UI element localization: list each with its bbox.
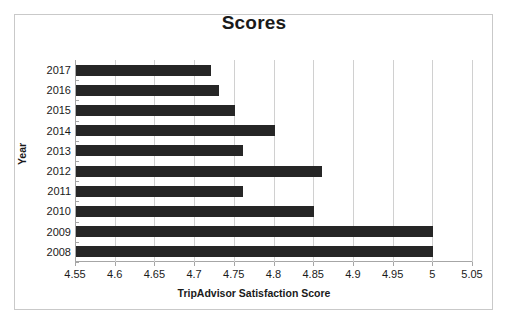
x-axis-title: TripAdvisor Satisfaction Score xyxy=(0,287,508,299)
y-axis-tick-label: 2010 xyxy=(31,201,71,221)
bar-row xyxy=(76,100,235,120)
x-axis-tick-label: 4.8 xyxy=(254,268,294,280)
x-axis-tick-label: 4.85 xyxy=(293,268,333,280)
bar-row xyxy=(76,222,433,242)
plot-area xyxy=(75,60,472,262)
y-axis-tick-label: 2016 xyxy=(31,80,71,100)
x-axis-tick-mark xyxy=(115,262,116,266)
x-axis-tick-mark xyxy=(353,262,354,266)
x-axis-tick-mark xyxy=(274,262,275,266)
x-axis-tick-label: 4.9 xyxy=(333,268,373,280)
x-axis-tick-mark xyxy=(313,262,314,266)
bar xyxy=(76,166,322,177)
chart-title: Scores xyxy=(0,12,508,34)
bar-row xyxy=(76,80,219,100)
y-axis-tick-label: 2011 xyxy=(31,181,71,201)
bar-row xyxy=(76,181,243,201)
bar xyxy=(76,105,235,116)
bar-row xyxy=(76,121,275,141)
y-axis-tick-label: 2015 xyxy=(31,100,71,120)
x-axis-tick-label: 4.55 xyxy=(55,268,95,280)
x-axis-tick-labels: 4.554.64.654.74.754.84.854.94.9555.05 xyxy=(0,268,508,284)
bar xyxy=(76,206,314,217)
y-axis-tick-label: 2017 xyxy=(31,60,71,80)
x-axis-tick-label: 4.6 xyxy=(95,268,135,280)
x-axis-tick-mark xyxy=(154,262,155,266)
x-axis-tick-mark xyxy=(234,262,235,266)
bar-row xyxy=(76,161,322,181)
x-axis-tick-label: 4.95 xyxy=(373,268,413,280)
bar xyxy=(76,145,243,156)
bar-row xyxy=(76,60,211,80)
y-axis-tick-labels: 2017201620152014201320122011201020092008 xyxy=(31,60,71,262)
x-axis-tick-mark xyxy=(432,262,433,266)
y-axis-title: Year xyxy=(16,124,28,184)
bar xyxy=(76,246,433,257)
x-axis-tick-label: 5.05 xyxy=(452,268,492,280)
bar xyxy=(76,125,275,136)
gridline xyxy=(472,60,473,262)
x-axis-tick-mark xyxy=(472,262,473,266)
bar xyxy=(76,186,243,197)
x-axis-tick-label: 4.75 xyxy=(214,268,254,280)
y-axis-tick-label: 2008 xyxy=(31,242,71,262)
bar-row xyxy=(76,141,243,161)
bar-row xyxy=(76,201,314,221)
x-axis-tick-label: 4.7 xyxy=(174,268,214,280)
y-axis-tick-label: 2014 xyxy=(31,121,71,141)
bar-series xyxy=(76,60,472,262)
y-axis-tick-label: 2013 xyxy=(31,141,71,161)
y-axis-tick-label: 2009 xyxy=(31,222,71,242)
bar xyxy=(76,226,433,237)
x-axis-tick-label: 4.65 xyxy=(134,268,174,280)
bar xyxy=(76,65,211,76)
x-axis-tick-mark xyxy=(75,262,76,266)
x-axis-tick-mark xyxy=(194,262,195,266)
bar-row xyxy=(76,242,433,262)
x-axis-tick-mark xyxy=(393,262,394,266)
bar xyxy=(76,85,219,96)
y-axis-tick-label: 2012 xyxy=(31,161,71,181)
x-axis-tick-label: 5 xyxy=(412,268,452,280)
